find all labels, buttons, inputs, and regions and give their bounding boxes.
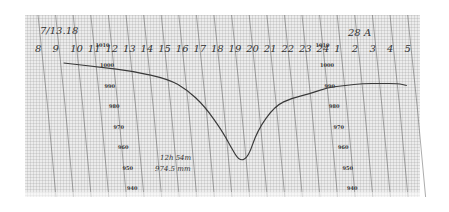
hour-tick-label: 9 (53, 43, 60, 54)
pressure-tick-label: 1010 (316, 42, 330, 48)
date-label-left: 7/13.18 (40, 25, 78, 36)
hour-tick-label: 22 (280, 43, 294, 54)
hour-tick-label: 17 (193, 43, 206, 54)
hour-tick-label: 4 (386, 43, 393, 54)
hour-tick-label: 10 (70, 43, 83, 54)
hour-tick-label: 16 (176, 43, 189, 54)
hour-tick-label: 23 (298, 43, 312, 54)
pressure-tick-label: 1000 (320, 62, 334, 68)
chart-paper (25, 15, 426, 197)
paper-edge (25, 192, 420, 200)
hour-tick-label: 8 (35, 43, 41, 54)
pressure-tick-label: 980 (329, 103, 340, 109)
hour-tick-label: 3 (369, 43, 375, 54)
pressure-tick-label: 940 (127, 185, 138, 191)
hour-tick-label: 19 (229, 43, 242, 54)
annotation-time: 12h 54m (160, 154, 192, 162)
hour-tick-label: 21 (263, 43, 277, 54)
pressure-tick-label: 980 (109, 103, 120, 109)
hour-tick-label: 14 (141, 43, 154, 54)
pressure-tick-label: 970 (334, 124, 345, 130)
date-label-right: 28 A (347, 27, 371, 38)
hour-axis: 8910111213141516171819202122232412345 (35, 43, 411, 54)
hour-tick-label: 5 (405, 43, 411, 54)
barograph-chart: 7/13.18 28 A 891011121314151617181920212… (0, 0, 449, 212)
annotation-pressure: 974.5 mm (155, 165, 191, 173)
pressure-tick-label: 960 (118, 144, 129, 150)
hour-tick-label: 13 (123, 43, 136, 54)
pressure-tick-label: 970 (114, 124, 125, 130)
hour-tick-label: 2 (351, 43, 358, 54)
hour-tick-label: 1 (334, 43, 340, 54)
pressure-tick-label: 1010 (96, 42, 110, 48)
pressure-tick-label: 990 (105, 83, 116, 89)
pressure-tick-label: 950 (123, 165, 134, 171)
pressure-tick-label: 950 (343, 165, 354, 171)
hour-tick-label: 18 (211, 43, 224, 54)
hour-tick-label: 15 (158, 43, 171, 54)
hour-tick-label: 20 (245, 43, 259, 54)
pressure-tick-label: 960 (338, 144, 349, 150)
pressure-tick-label: 940 (347, 185, 358, 191)
